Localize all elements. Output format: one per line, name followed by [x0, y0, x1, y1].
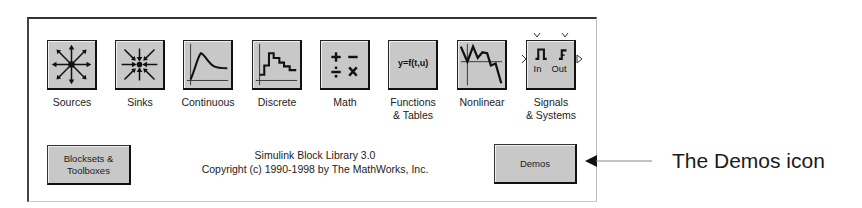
math-label: Math: [315, 96, 375, 109]
nonlinear-icon: [458, 41, 505, 88]
library-info: Simulink Block Library 3.0 Copyright (c)…: [160, 148, 470, 176]
functions-tables-block[interactable]: y=f(t,u): [388, 40, 438, 90]
demos-callout-text: The Demos icon: [672, 149, 825, 173]
functions-tables-icon: y=f(t,u): [389, 58, 437, 68]
continuous-label: Continuous: [173, 96, 243, 109]
library-title: Simulink Block Library 3.0: [160, 148, 470, 162]
signals-port-markers-icon: [520, 32, 590, 72]
sinks-block[interactable]: [115, 40, 165, 90]
continuous-block[interactable]: [183, 40, 233, 90]
discrete-block[interactable]: [252, 40, 302, 90]
sinks-icon: [116, 41, 163, 88]
nonlinear-block[interactable]: [457, 40, 507, 90]
discrete-label: Discrete: [242, 96, 312, 109]
demos-button[interactable]: Demos: [494, 144, 577, 184]
sinks-label: Sinks: [110, 96, 170, 109]
math-icon: [321, 41, 368, 88]
sources-block[interactable]: [47, 40, 97, 90]
sources-label: Sources: [42, 96, 102, 109]
blocksets-toolboxes-button[interactable]: Blocksets & Toolboxes: [47, 145, 131, 185]
math-block[interactable]: [320, 40, 370, 90]
discrete-icon: [253, 41, 300, 88]
functions-tables-label: Functions & Tables: [378, 96, 448, 122]
sources-icon: [48, 41, 95, 88]
nonlinear-label: Nonlinear: [447, 96, 517, 109]
left-arrow-icon: [584, 151, 654, 171]
continuous-icon: [184, 41, 231, 88]
copyright-text: Copyright (c) 1990-1998 by The MathWorks…: [160, 162, 470, 176]
signals-systems-label: Signals & Systems: [516, 96, 586, 122]
